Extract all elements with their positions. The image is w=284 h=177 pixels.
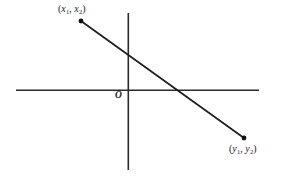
label-point-upper-left: (x1, x2)	[58, 4, 86, 14]
label-sub-y2: 2	[250, 148, 254, 155]
label-sub-x2: 2	[79, 8, 83, 15]
label-close-paren: )	[82, 3, 85, 14]
coordinate-plane-figure: (x1, x2) O (y1, y2)	[0, 0, 284, 177]
endpoint-dot-lower-right	[242, 136, 247, 141]
label-sub-y1: 1	[237, 148, 241, 155]
endpoint-dot-upper-left	[79, 19, 84, 24]
origin-label: O	[115, 91, 122, 101]
label-close-paren: )	[253, 143, 256, 154]
label-sub-x1: 1	[66, 8, 70, 15]
point-connecting-segment	[81, 21, 244, 138]
label-point-lower-right: (y1, y2)	[229, 144, 257, 154]
